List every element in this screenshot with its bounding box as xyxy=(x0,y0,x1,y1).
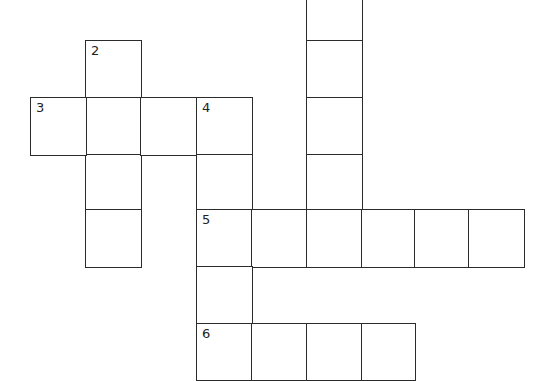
crossword-cell[interactable] xyxy=(306,323,363,381)
crossword-cell[interactable] xyxy=(361,323,416,381)
clue-number: 5 xyxy=(202,213,210,226)
crossword-cell[interactable] xyxy=(361,209,416,268)
crossword-cell[interactable] xyxy=(306,154,363,211)
crossword-cell[interactable] xyxy=(85,154,142,211)
clue-number: 6 xyxy=(202,327,210,340)
crossword-cell-6[interactable]: 6 xyxy=(196,323,253,381)
crossword-cell[interactable] xyxy=(140,97,198,156)
crossword-cell-3[interactable]: 3 xyxy=(30,97,87,156)
clue-number: 2 xyxy=(91,44,99,57)
crossword-cell[interactable] xyxy=(85,209,142,268)
crossword-cell[interactable] xyxy=(468,209,525,268)
crossword-cell[interactable] xyxy=(306,209,363,268)
crossword-cell[interactable] xyxy=(251,209,308,268)
crossword-cell[interactable] xyxy=(196,266,253,325)
crossword-cell[interactable] xyxy=(306,97,363,156)
crossword-cell[interactable] xyxy=(196,154,253,211)
crossword-cell-2[interactable]: 2 xyxy=(85,40,142,99)
crossword-cell-4[interactable]: 4 xyxy=(196,97,253,156)
crossword-cell[interactable] xyxy=(85,97,142,156)
crossword-cell[interactable] xyxy=(306,0,363,42)
clue-number: 4 xyxy=(202,101,210,114)
clue-number: 3 xyxy=(36,101,44,114)
crossword-cell-5[interactable]: 5 xyxy=(196,209,253,268)
crossword-cell[interactable] xyxy=(414,209,470,268)
crossword-cell[interactable] xyxy=(306,40,363,99)
crossword-cell[interactable] xyxy=(251,323,308,381)
